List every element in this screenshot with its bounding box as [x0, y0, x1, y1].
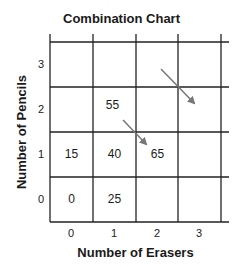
cell-e1-p1: 40	[93, 132, 136, 177]
x-tick-3: 3	[189, 227, 209, 239]
y-tick-0: 0	[31, 193, 51, 205]
cell-e1-p2: 55	[91, 83, 134, 128]
cell-e0-p1: 15	[50, 132, 93, 177]
cell-e2-p1: 65	[136, 132, 179, 177]
y-tick-2: 2	[31, 103, 51, 115]
x-tick-0: 0	[61, 227, 81, 239]
y-tick-3: 3	[31, 58, 51, 70]
x-tick-2: 2	[147, 227, 167, 239]
x-tick-1: 1	[104, 227, 124, 239]
cell-e0-p0: 0	[50, 177, 93, 222]
cell-e1-p0: 25	[93, 177, 136, 222]
y-tick-1: 1	[31, 148, 51, 160]
